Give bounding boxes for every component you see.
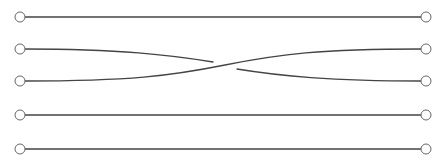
crossing-under-strand-left — [25, 49, 213, 62]
right-endpoint-2 — [421, 44, 431, 54]
right-endpoint-4 — [421, 110, 431, 120]
crossing-over-strand — [25, 49, 421, 81]
crossing-under-strand-right — [237, 69, 421, 81]
right-endpoint-1 — [421, 12, 431, 22]
left-endpoint-2 — [15, 44, 25, 54]
braid-diagram — [0, 0, 445, 165]
right-endpoint-5 — [421, 144, 431, 154]
left-endpoint-4 — [15, 110, 25, 120]
left-endpoint-5 — [15, 144, 25, 154]
left-endpoint-3 — [15, 76, 25, 86]
left-endpoint-1 — [15, 12, 25, 22]
right-endpoint-3 — [421, 76, 431, 86]
